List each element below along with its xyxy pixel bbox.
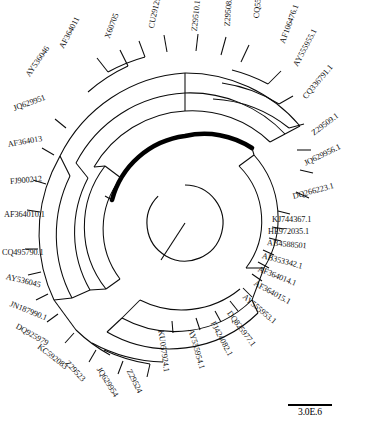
- tree-branches: [25, 34, 313, 377]
- scale-bar-label: 3.0E.6: [288, 406, 332, 417]
- taxon-label: AF364010.1: [4, 211, 45, 220]
- taxon-label: CQ495790.1: [2, 249, 44, 258]
- phylogenetic-tree-figure: [0, 0, 374, 437]
- arc-clade-l: [76, 93, 185, 163]
- taxon-label: HE972035.1: [268, 228, 309, 237]
- arc-clade-i: [75, 178, 90, 290]
- tip-spokes: [25, 34, 313, 377]
- arc-clade-m: [56, 176, 72, 298]
- arc-subclade-ul2: [88, 66, 128, 92]
- arc-clade-a: [239, 166, 262, 268]
- arc-backbone-upper: [185, 73, 300, 126]
- arc-backbone-upper-left: [60, 73, 185, 156]
- arc-subclade-b1: [76, 330, 110, 355]
- taxon-label: KJ744367.1: [272, 216, 311, 225]
- arc-subclade-ul1: [108, 57, 145, 72]
- scale-bar: 3.0E.6: [288, 404, 332, 417]
- arc-clade-c: [140, 289, 240, 310]
- arc-highlighted-clade: [112, 134, 252, 200]
